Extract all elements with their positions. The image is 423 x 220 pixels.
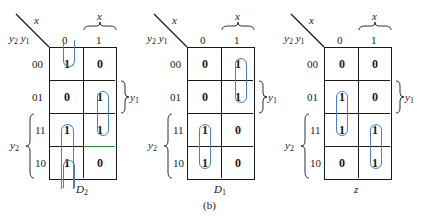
row-label-00: 00 — [307, 58, 318, 70]
cell-11-1: 0 — [221, 114, 255, 147]
cell-01-0: 0 — [50, 81, 84, 114]
map-title-d1: D1 — [214, 183, 226, 197]
map-title-z: z — [354, 183, 358, 197]
kmap-z: x y2 y1 x 0 1 00 01 11 10 y1 y2 0 0 1 0 … — [275, 0, 415, 220]
kmap-d1: x y2 y1 x 0 1 00 01 11 10 y1 y2 0 1 0 1 … — [138, 0, 278, 220]
map-title-d2: D2 — [76, 183, 88, 197]
row-label-11: 11 — [173, 124, 184, 136]
cell-00-0: 0 — [188, 48, 222, 81]
col-label-1: 1 — [371, 34, 377, 46]
row-label-10: 10 — [35, 157, 46, 169]
cell-01-1: 0 — [358, 81, 392, 114]
row-label-00: 00 — [170, 58, 181, 70]
row-label-10: 10 — [310, 157, 321, 169]
column-variable-label: x — [309, 14, 314, 26]
brace-y2-label: y2 — [148, 139, 157, 153]
cell-01-0: 0 — [188, 81, 222, 114]
col-label-0: 0 — [337, 34, 343, 46]
group-loop-x0-rows11-10 — [61, 124, 74, 189]
group-loop-wrap-top — [63, 40, 75, 67]
column-variable-label: x — [34, 14, 39, 26]
col-label-0: 0 — [200, 34, 206, 46]
column-variable-label: x — [172, 14, 177, 26]
row-label-01: 01 — [307, 91, 318, 103]
row-label-10: 10 — [173, 157, 184, 169]
row-label-11: 11 — [310, 124, 321, 136]
group-loop-x1-rows00-01 — [235, 58, 247, 103]
figure-caption: (b) — [203, 199, 216, 211]
row-label-00: 00 — [32, 58, 43, 70]
row-variables-label: y2 y1 — [284, 32, 305, 46]
group-loop-x0-rows11-10 — [199, 124, 211, 169]
col-label-1: 1 — [96, 34, 102, 46]
col-label-1: 1 — [234, 34, 240, 46]
row-label-01: 01 — [170, 91, 181, 103]
group-loop-x1-rows11-10 — [370, 124, 382, 169]
cell-10-0: 0 — [325, 147, 359, 180]
group-loop-x1-rows01-11 — [97, 91, 109, 136]
brace-x-label: x — [97, 10, 102, 22]
row-label-01: 01 — [32, 91, 43, 103]
cell-10-1: 0 — [221, 147, 255, 180]
row-variables-label: y2 y1 — [9, 32, 30, 46]
kmap-d2: x y2 y1 x 0 1 00 01 11 10 y1 y2 1 0 0 1 … — [0, 0, 140, 220]
cell-00-1: 0 — [358, 48, 392, 81]
brace-y2-label: y2 — [285, 139, 294, 153]
brace-x-label: x — [235, 10, 240, 22]
cell-00-0: 0 — [325, 48, 359, 81]
brace-y2-label: y2 — [10, 139, 19, 153]
row-variables-label: y2 y1 — [147, 32, 168, 46]
cell-00-1: 0 — [83, 48, 117, 81]
brace-y1-label: y1 — [405, 91, 414, 105]
row-label-11: 11 — [35, 124, 46, 136]
group-loop-x0-rows01-11 — [336, 91, 348, 136]
cell-10-1: 0 — [83, 147, 117, 180]
brace-x-label: x — [372, 10, 377, 22]
